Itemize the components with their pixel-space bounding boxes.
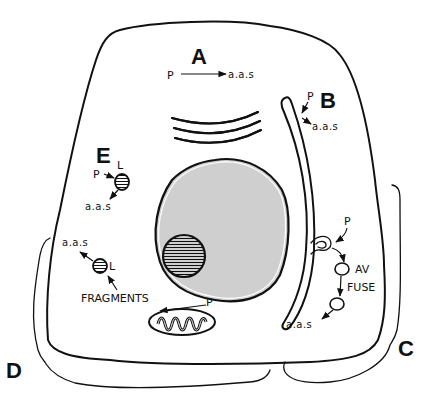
pathway-b: B P a.a.s [302,88,338,132]
label-c-av: AV [355,263,370,276]
arrow-d-out [80,252,93,261]
label-e-aas: a.a.s [85,201,111,212]
label-e: E [96,143,111,168]
golgi-stack [172,112,261,143]
label-c: C [398,336,414,361]
label-a-p: P [167,69,174,82]
label-e-p: P [93,168,100,181]
label-b-p: P [307,90,314,103]
arrow-b-out [302,118,311,124]
label-d-l: L [109,260,116,273]
lysosome-d [93,259,107,273]
arrow-e-in [104,174,114,178]
arrow-c-in [336,228,347,242]
label-c-p: P [344,215,351,228]
arrow-d-fragments [108,276,117,290]
label-d-fragments: FRAGMENTS [81,292,149,305]
label-a: A [191,44,207,69]
arrow-c-fuse [340,276,341,296]
cell-diagram: A P a.a.s B P a.a.s E L P a.a.s a.a.s L … [0,0,437,404]
label-d-p: P [206,296,213,309]
label-b-aas: a.a.s [312,121,338,132]
lysosome-large [163,235,205,277]
arrow-c-av [332,248,344,262]
label-c-aas: a.a.s [286,319,312,330]
label-b: B [320,88,336,113]
arrow-b-in [302,102,308,113]
label-d-aas: a.a.s [62,237,88,248]
autophagic-vacuole [335,263,349,275]
arrow-c-out [322,310,333,319]
fused-vacuole [330,298,344,310]
label-e-l: L [117,159,124,172]
pathway-e: E L P a.a.s [85,143,129,212]
lysosome-e [115,174,129,190]
label-d: D [6,358,22,383]
arrow-e-out [110,190,118,199]
mitochondrion [149,309,215,335]
pathway-a: A P a.a.s [167,44,254,82]
label-c-fuse: FUSE [347,281,375,294]
autophagic-bud-inner [316,241,326,248]
label-a-aas: a.a.s [228,69,254,80]
cell-diagram-svg: A P a.a.s B P a.a.s E L P a.a.s a.a.s L … [0,0,437,404]
